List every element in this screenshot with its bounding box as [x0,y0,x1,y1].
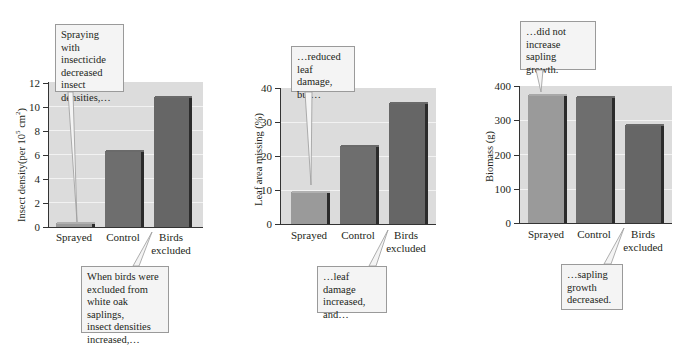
y-tick-label: 400 [485,80,511,92]
y-axis [519,86,520,224]
bar-birds-excluded [625,125,661,223]
category-label-birds-excluded: Birdsexcluded [613,228,673,254]
y-tick-label: 0 [485,217,511,229]
callout-birds-excluded: …sapling growth decreased. [561,264,623,310]
x-axis [519,223,672,224]
y-tick-label: 100 [485,183,511,195]
y-axis-label: Biomass (g) [484,131,495,182]
chart-biomass: 0 100 200 300 400 Biomass (g) Sprayed Co… [0,0,684,346]
callout-sprayed: …did not increase sapling growth. [520,21,596,70]
bar-control [576,97,612,223]
bar-sprayed [528,95,564,223]
y-tick-label: 300 [485,114,511,126]
